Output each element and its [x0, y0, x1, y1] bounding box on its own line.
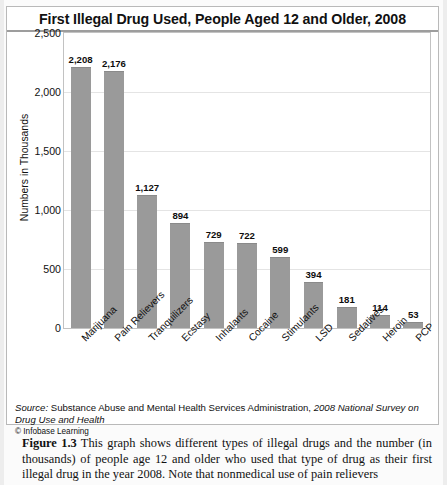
bar-value-label: 729	[206, 229, 222, 240]
bar-value-label: 2,176	[102, 58, 126, 69]
x-label-slot: Sedatives	[331, 331, 364, 401]
y-tick-label: 1,000	[15, 204, 61, 216]
bar-slot: 114	[363, 33, 396, 328]
copyright-note: © Infobase Learning	[15, 427, 89, 436]
bar-slot: 729	[197, 33, 230, 328]
bar-slot: 894	[164, 33, 197, 328]
bar-slot: 53	[397, 33, 430, 328]
bar-slot: 722	[230, 33, 263, 328]
bar-value-label: 2,208	[69, 54, 93, 65]
chart-card: First Illegal Drug Used, People Aged 12 …	[6, 6, 439, 425]
bar-series: 2,2082,1761,12789472972259939418111453	[64, 33, 430, 328]
chart-title: First Illegal Drug Used, People Aged 12 …	[7, 7, 438, 30]
bar[interactable]	[71, 67, 91, 328]
page-right-edge	[443, 0, 447, 485]
x-label-slot: LSD	[297, 331, 330, 401]
figure-caption: Figure 1.3 This graph shows different ty…	[22, 436, 432, 483]
y-tick-label: 2,000	[15, 86, 61, 98]
x-label-slot: Cocaine	[230, 331, 263, 401]
x-label-slot: Stimulants	[264, 331, 297, 401]
y-tick-label: 500	[15, 263, 61, 275]
source-note: Source: Substance Abuse and Mental Healt…	[15, 402, 430, 425]
y-tick-label: 0	[15, 322, 61, 334]
plot-wrapper: Numbers in Thousands 05001,0001,5002,000…	[7, 32, 438, 424]
x-axis-tick-labels: MarijuanaPain RelieversTranquilizersEcst…	[63, 331, 431, 401]
x-label-slot: Marijuana	[63, 331, 96, 401]
bar[interactable]	[104, 71, 124, 328]
figure-page: First Illegal Drug Used, People Aged 12 …	[0, 0, 447, 485]
x-label-slot: PCP	[398, 331, 431, 401]
y-tick-label: 2,500	[15, 27, 61, 39]
bar-slot: 181	[330, 33, 363, 328]
bar-slot: 394	[297, 33, 330, 328]
figure-caption-text: This graph shows different types of ille…	[22, 436, 432, 481]
y-tick-label: 1,500	[15, 145, 61, 157]
y-axis-tick-labels: 05001,0001,5002,0002,500	[11, 32, 61, 332]
bar-value-label: 181	[339, 294, 355, 305]
bar-slot: 2,176	[97, 33, 130, 328]
bar-value-label: 599	[272, 244, 288, 255]
page-left-edge	[0, 0, 4, 485]
bar-value-label: 1,127	[135, 182, 159, 193]
bar-value-label: 53	[408, 309, 419, 320]
bar-slot: 599	[264, 33, 297, 328]
x-label-slot: Ecstasy	[163, 331, 196, 401]
bar-slot: 2,208	[64, 33, 97, 328]
bar[interactable]	[337, 307, 357, 328]
plot-area: 2,2082,1761,12789472972259939418111453	[63, 32, 431, 329]
x-label-slot: Heroin	[364, 331, 397, 401]
x-label-slot: Pain Relievers	[96, 331, 129, 401]
source-text: Substance Abuse and Mental Health Servic…	[48, 402, 314, 413]
x-label-slot: Tranquilizers	[130, 331, 163, 401]
x-label-slot: Inhalants	[197, 331, 230, 401]
bar-value-label: 722	[239, 230, 255, 241]
bar-slot: 1,127	[131, 33, 164, 328]
bar-value-label: 394	[305, 269, 321, 280]
figure-number: Figure 1.3	[22, 436, 77, 450]
bar-value-label: 894	[172, 210, 188, 221]
source-prefix: Source:	[15, 402, 48, 413]
